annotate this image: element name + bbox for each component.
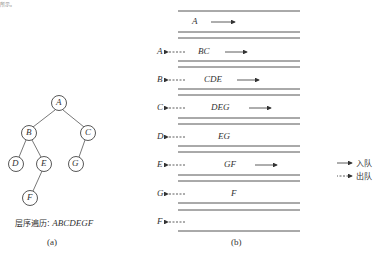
tree-node-label-F: F xyxy=(27,192,33,202)
dequeued-label-2: B xyxy=(157,74,163,84)
caption-a: (a) xyxy=(47,237,57,247)
traversal-line: 层序遍历: ABCDEGF xyxy=(15,217,93,228)
dequeued-label-6: G xyxy=(157,188,164,198)
legend-enqueue-label: 入队 xyxy=(356,157,372,168)
queue-row-1-content: BC xyxy=(198,46,210,56)
queue-row-0-content: A xyxy=(192,16,198,26)
caption-b: (b) xyxy=(231,237,242,247)
queue-row-6-content: F xyxy=(231,188,237,198)
tree-node-label-B: B xyxy=(26,127,32,137)
queue-row-4-content: EG xyxy=(218,131,230,141)
legend-dequeue-label: 出队 xyxy=(356,170,372,181)
tree-node-label-G: G xyxy=(72,158,79,168)
traversal-label: 层序遍历: xyxy=(15,219,52,228)
tree-edges xyxy=(19,110,85,191)
dequeued-label-4: D xyxy=(157,131,164,141)
dequeued-label-1: A xyxy=(157,46,163,56)
queue-row-5-content: GF xyxy=(224,159,236,169)
dequeued-label-3: C xyxy=(157,102,163,112)
tree-node-label-A: A xyxy=(56,97,62,107)
queue-row-3-content: DEG xyxy=(211,102,230,112)
dequeue-arrows xyxy=(168,52,185,222)
dequeued-label-5: E xyxy=(157,159,163,169)
tree-node-label-D: D xyxy=(12,158,19,168)
queue-row-2-content: CDE xyxy=(204,74,222,84)
tree-node-label-E: E xyxy=(41,158,47,168)
tree-node-label-C: C xyxy=(85,127,91,137)
dequeued-label-7: F xyxy=(157,216,163,226)
enqueue-arrows xyxy=(211,22,277,165)
traversal-value: ABCDEGF xyxy=(52,218,93,228)
queue-lines xyxy=(178,11,300,231)
